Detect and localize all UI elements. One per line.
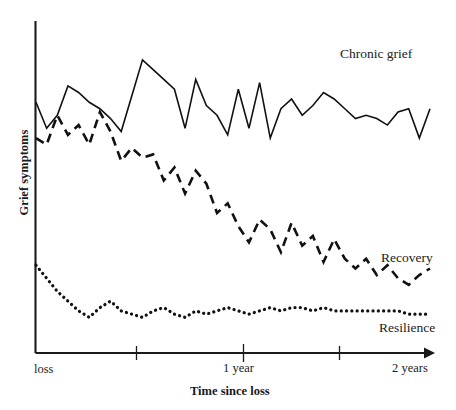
y-axis-title: Grief symptoms — [17, 123, 32, 223]
series-label-resilience: Resilience — [379, 320, 435, 336]
x-axis-title: Time since loss — [190, 384, 270, 399]
series-line-resilience — [36, 265, 430, 317]
series-label-chronic-grief: Chronic grief — [340, 46, 412, 62]
series-line-recovery — [36, 112, 430, 285]
grief-trajectories-chart: Chronic grief Recovery Resilience loss 1… — [0, 0, 456, 410]
x-tick-label-loss: loss — [34, 362, 53, 377]
x-tick-label-two-years: 2 years — [392, 361, 428, 376]
x-axis-arrow-icon — [424, 348, 435, 359]
series-label-recovery: Recovery — [381, 250, 433, 266]
x-tick-label-one-year: 1 year — [223, 361, 254, 376]
